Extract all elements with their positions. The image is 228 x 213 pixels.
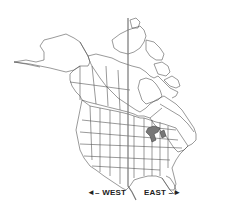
north-america-map bbox=[0, 0, 228, 213]
arctic-islands bbox=[112, 26, 146, 54]
alaska-outline bbox=[14, 34, 90, 72]
east-label: EAST –► bbox=[144, 188, 181, 197]
west-label: ◄– WEST bbox=[87, 188, 126, 197]
canada-outline bbox=[70, 42, 196, 152]
land-outlines bbox=[14, 18, 196, 194]
great-lakes bbox=[146, 126, 160, 142]
hudson-bay bbox=[138, 78, 162, 104]
